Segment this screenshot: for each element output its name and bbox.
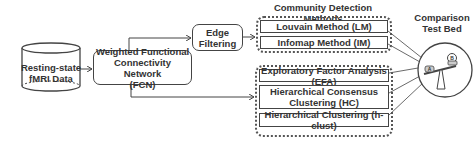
hc-label-line1: Hierarchical Consensus	[270, 86, 378, 97]
fmri-data-label-line2: fMRI Data	[20, 73, 82, 84]
fmri-data-label-line1: Resting-state	[20, 62, 82, 73]
edge-filtering-node: Edge Filtering	[192, 24, 243, 51]
hc-method-box: Hierarchical Consensus Clustering (HC)	[259, 85, 389, 109]
comparison-test-bed-circle: A B	[414, 41, 474, 101]
fcn-label-line2: Connectivity Network	[94, 57, 191, 79]
comparison-title-line2: Test Bed	[410, 23, 474, 34]
pan-b-label: B	[450, 55, 454, 61]
fcn-label-line1: Weighted Functional	[96, 46, 189, 57]
pan-a-label: A	[428, 66, 432, 72]
fcn-node: Weighted Functional Connectivity Network…	[93, 50, 192, 85]
infomap-method-box: Infomap Method (IM)	[260, 36, 388, 49]
fmri-data-node: Resting-state fMRI Data	[20, 42, 82, 94]
edge-filtering-label-line1: Edge	[206, 27, 229, 38]
edge-filtering-label-line2: Filtering	[199, 38, 236, 49]
fcn-label-line3: (FCN)	[130, 79, 156, 90]
louvain-method-box: Louvain Method (LM)	[260, 20, 388, 33]
hclust-method-box: Hierarchical Clustering (h-clust)	[259, 113, 389, 127]
efa-method-box: Exploratory Factor Analysis (EFA)	[259, 69, 389, 82]
comparison-title: Comparison Test Bed	[410, 12, 474, 34]
hc-label-line2: Clustering (HC)	[289, 97, 359, 108]
comparison-title-line1: Comparison	[410, 12, 474, 23]
